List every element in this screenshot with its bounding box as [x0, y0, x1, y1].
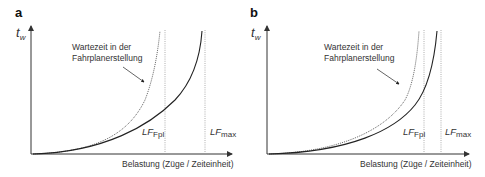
annotation-line2: Fahrplanerstellung — [72, 53, 143, 63]
x-axis-label: Belastung (Züge / Zeiteinheit) — [122, 159, 234, 169]
annotation-line1: Wartezeit in der — [324, 42, 383, 52]
annotation-line2: Fahrplanerstellung — [324, 53, 395, 63]
lf-max-label: LFmax — [445, 126, 471, 139]
lf-fpl-label: LFFpl — [403, 126, 425, 139]
annotation-line1: Wartezeit in der — [72, 42, 131, 52]
annotation-arrow — [377, 69, 399, 84]
panel-a: a tw Wartezeit in der Fahrplanerstellung… — [15, 5, 236, 169]
y-axis-label: tw — [251, 25, 262, 42]
x-axis-label: Belastung (Züge / Zeiteinheit) — [360, 159, 472, 169]
panel-label: a — [15, 5, 23, 20]
panel-b: b tw Wartezeit in der Fahrplanerstellung… — [250, 5, 472, 169]
panel-label: b — [250, 5, 258, 20]
lf-fpl-label: LFFpl — [142, 126, 164, 139]
y-axis-label: tw — [16, 25, 27, 42]
lf-max-label: LFmax — [210, 126, 236, 139]
annotation-arrow — [123, 67, 144, 82]
